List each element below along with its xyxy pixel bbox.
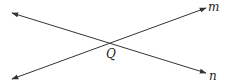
lines-svg [0,0,227,83]
line-n [12,13,206,73]
intersection-point-label: Q [106,48,116,60]
line-n-label: n [209,70,217,82]
line-m-label: m [208,1,219,13]
intersecting-lines-diagram: m n Q [0,0,227,83]
